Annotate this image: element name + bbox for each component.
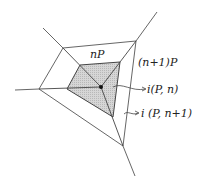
inner-polytope [67,62,120,117]
label-interior-n: i(P, n) [147,83,178,96]
label-interior-n1: i (P, n+1) [141,107,192,120]
apex-point [99,85,103,89]
label-nP: nP [90,48,105,61]
polytope-dilation-diagram: nP (n+1)P i(P, n) i (P, n+1) [0,0,212,182]
label-n1P: (n+1)P [138,56,178,69]
